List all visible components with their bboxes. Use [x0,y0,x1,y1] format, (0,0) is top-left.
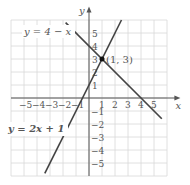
y-axis-arrow-icon [87,7,92,13]
y-tick-label: −3 [91,133,105,143]
intersection-point [100,57,105,62]
x-tick-label: −4 [32,100,46,110]
coordinate-plane: xy−5−4−3−2−11234554321−1−2−3−4−5 y = 4 −… [0,0,190,185]
y-tick-label: 3 [92,55,98,65]
x-tick-label: 4 [138,100,144,110]
y-axis-label: y [78,5,85,16]
graph-svg: xy−5−4−3−2−11234554321−1−2−3−4−5 y = 4 −… [0,0,190,185]
x-tick-label: 3 [125,100,131,110]
x-axis-label: x [175,100,181,111]
annotations: y = 4 − xy = 2x + 1(1, 3) [6,25,133,136]
x-tick-label: −2 [58,100,71,110]
y-tick-label: −5 [91,159,105,169]
x-tick-label: 2 [112,100,118,110]
equation-label-2: y = 2x + 1 [7,123,64,134]
y-tick-label: −2 [91,120,104,130]
x-tick-label: −5 [19,100,33,110]
intersection-label: (1, 3) [106,54,133,65]
y-tick-label: 5 [92,29,98,39]
y-tick-label: 1 [92,81,98,91]
x-tick-label: −3 [45,100,59,110]
equation-label-1: y = 4 − x [23,26,71,37]
y-tick-label: −1 [91,107,104,117]
y-tick-label: −4 [91,146,105,156]
